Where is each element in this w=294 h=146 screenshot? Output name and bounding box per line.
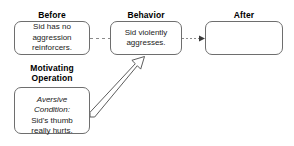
connector-mo-to-behavior: [90, 57, 145, 118]
heading-after: After: [205, 10, 283, 20]
diagram-canvas: Before Behavior After Motivating Operati…: [0, 0, 294, 146]
box-motivating-operation-text: Aversive Condition:Sid's thumb really hu…: [28, 84, 76, 137]
box-behavior[interactable]: Sid violently aggresses.: [110, 21, 182, 55]
box-motivating-operation[interactable]: Aversive Condition:Sid's thumb really hu…: [14, 87, 90, 134]
heading-motivating-operation: Motivating Operation: [14, 63, 90, 83]
box-before[interactable]: Sid has no aggression reinforcers.: [14, 21, 90, 55]
box-motivating-operation-body-text: Sid's thumb really hurts.: [31, 116, 73, 136]
box-behavior-text: Sid violently aggresses.: [122, 28, 171, 49]
box-before-text: Sid has no aggression reinforcers.: [29, 22, 75, 54]
box-motivating-operation-italic-text: Aversive Condition:: [31, 95, 73, 116]
heading-behavior: Behavior: [110, 10, 182, 20]
heading-before: Before: [14, 10, 90, 20]
box-after[interactable]: [205, 21, 283, 55]
